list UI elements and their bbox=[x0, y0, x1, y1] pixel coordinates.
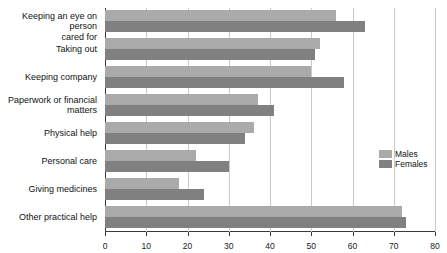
bar-males bbox=[105, 38, 320, 49]
x-axis-tick bbox=[353, 232, 354, 236]
legend-swatch-males bbox=[379, 150, 392, 158]
x-axis-tick-label: 50 bbox=[307, 241, 316, 251]
x-axis-tick-label: 60 bbox=[348, 241, 357, 251]
x-axis-tick bbox=[311, 232, 312, 236]
bar-males bbox=[105, 122, 254, 133]
gridline bbox=[353, 8, 354, 232]
bar-females bbox=[105, 21, 365, 32]
category-label: Giving medicines bbox=[0, 184, 97, 195]
gridline bbox=[394, 8, 395, 232]
category-label: Taking out bbox=[0, 44, 97, 55]
bar-females bbox=[105, 133, 245, 144]
x-axis-tick-label: 40 bbox=[265, 241, 274, 251]
legend-item: Males bbox=[379, 149, 428, 159]
bar-males bbox=[105, 94, 258, 105]
bar-males bbox=[105, 150, 196, 161]
x-axis-tick bbox=[270, 232, 271, 236]
x-axis-tick bbox=[394, 232, 395, 236]
bar-males bbox=[105, 10, 336, 21]
bar-females bbox=[105, 217, 406, 228]
legend-swatch-females bbox=[379, 160, 392, 168]
x-axis-tick-label: 0 bbox=[103, 241, 108, 251]
category-label: Keeping company bbox=[0, 72, 97, 83]
x-axis-tick-label: 30 bbox=[224, 241, 233, 251]
x-axis-tick bbox=[229, 232, 230, 236]
category-label: Other practical help bbox=[0, 212, 97, 223]
bar-females bbox=[105, 49, 315, 60]
category-label: Paperwork or financial matters bbox=[0, 95, 97, 116]
category-label: Keeping an eye on person cared for bbox=[0, 11, 97, 43]
x-axis-tick-label: 20 bbox=[183, 241, 192, 251]
x-axis-tick bbox=[435, 232, 436, 236]
bar-females bbox=[105, 77, 344, 88]
bar-males bbox=[105, 206, 402, 217]
bar-females bbox=[105, 189, 204, 200]
category-axis-labels: Keeping an eye on person cared forTaking… bbox=[0, 8, 101, 232]
x-axis-tick bbox=[105, 232, 106, 236]
x-axis-tick-label: 10 bbox=[142, 241, 151, 251]
bar-males bbox=[105, 178, 179, 189]
legend-item: Females bbox=[379, 159, 428, 169]
x-axis-tick bbox=[188, 232, 189, 236]
x-axis-tick-label: 70 bbox=[389, 241, 398, 251]
bar-females bbox=[105, 105, 274, 116]
bar-females bbox=[105, 161, 229, 172]
bar-males bbox=[105, 66, 311, 77]
x-axis-tick bbox=[146, 232, 147, 236]
bar-chart: Keeping an eye on person cared forTaking… bbox=[0, 0, 447, 253]
x-axis-tick-label: 80 bbox=[430, 241, 439, 251]
legend: MalesFemales bbox=[379, 149, 428, 169]
plot-area: 01020304050607080 bbox=[105, 8, 435, 232]
legend-label: Males bbox=[395, 149, 418, 159]
category-label: Physical help bbox=[0, 128, 97, 139]
category-label: Personal care bbox=[0, 156, 97, 167]
legend-label: Females bbox=[395, 159, 428, 169]
gridline bbox=[435, 8, 436, 232]
